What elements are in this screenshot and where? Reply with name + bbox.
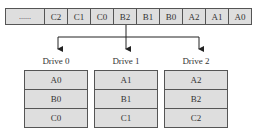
drive-0-block-a0: A0 xyxy=(25,71,87,89)
drive-1-label: Drive 1 xyxy=(94,56,158,66)
drive-0: A0 B0 C0 xyxy=(24,70,88,128)
drive-0-label: Drive 0 xyxy=(24,56,88,66)
drive-0-block-b0: B0 xyxy=(25,89,87,108)
drive-2-block-b2: B2 xyxy=(165,89,227,108)
drive-2-block-c2: C2 xyxy=(165,108,227,127)
drive-2-label: Drive 2 xyxy=(164,56,228,66)
drive-1-block-b1: B1 xyxy=(95,89,157,108)
drive-1-block-c1: C1 xyxy=(95,108,157,127)
drive-1: A1 B1 C1 xyxy=(94,70,158,128)
drive-1-block-a1: A1 xyxy=(95,71,157,89)
drive-2-block-a2: A2 xyxy=(165,71,227,89)
drive-2: A2 B2 C2 xyxy=(164,70,228,128)
drive-0-block-c0: C0 xyxy=(25,108,87,127)
